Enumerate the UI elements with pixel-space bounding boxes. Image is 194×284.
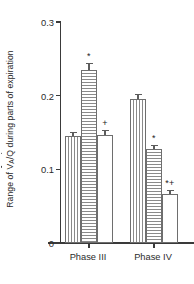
- dot-over-v-icon: [1, 166, 3, 168]
- y-axis-tick-label: 0.2: [41, 90, 54, 101]
- bar-2-1: [130, 99, 146, 243]
- error-bar-cap-1-3: [102, 130, 109, 131]
- error-bar-cap-2-3: [167, 190, 174, 191]
- significance-marker-1-3: +: [102, 119, 108, 127]
- y-axis-tick: [56, 169, 61, 170]
- significance-marker-2-3: *+: [165, 179, 174, 187]
- bar-1-2: [81, 70, 97, 243]
- y-axis-tick-label: 0: [49, 238, 54, 249]
- x-axis-group-label-1: Phase III: [70, 252, 107, 262]
- slash-separator: /: [5, 157, 15, 160]
- y-axis-tick: [56, 21, 61, 22]
- significance-marker-2-2: *: [152, 134, 156, 142]
- y-axis-label-prefix: Range of: [5, 170, 15, 208]
- figure-container: Range of VA/Q during parts of expiration…: [0, 0, 194, 284]
- v-letter: V: [5, 164, 15, 170]
- bar-1-3: [97, 135, 113, 243]
- y-axis-label-suffix: during parts of expiration: [5, 50, 15, 150]
- error-bar-cap-1-1: [70, 132, 77, 133]
- y-axis-label: Range of VA/Q during parts of expiration: [5, 9, 15, 249]
- error-bar-cap-2-2: [151, 145, 158, 146]
- significance-marker-1-2: *: [87, 52, 91, 60]
- plot-area: 00.10.20.3*+**+: [60, 22, 189, 243]
- x-axis-tick: [88, 243, 89, 248]
- x-axis-group-label-2: Phase IV: [134, 252, 172, 262]
- y-axis-tick-label: 0.1: [41, 164, 54, 175]
- v-dot-symbol: V: [5, 164, 15, 170]
- y-axis-tick: [56, 242, 61, 243]
- bar-2-3: [162, 194, 178, 243]
- q-dot-symbol: Q: [5, 150, 15, 157]
- bar-1-1: [65, 136, 81, 243]
- dot-over-q-icon: [1, 153, 3, 155]
- x-axis-tick: [153, 243, 154, 248]
- y-axis-label-container: Range of VA/Q during parts of expiration: [0, 0, 20, 260]
- bar-2-2: [146, 149, 162, 243]
- error-bar-cap-1-2: [86, 63, 93, 64]
- y-axis-tick-label: 0.3: [41, 17, 54, 28]
- q-letter: Q: [5, 150, 15, 157]
- y-axis-tick: [56, 95, 61, 96]
- error-bar-cap-2-1: [135, 94, 142, 95]
